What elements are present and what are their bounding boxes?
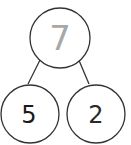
part-value-right: 2 bbox=[88, 101, 103, 129]
part-circle-right: 2 bbox=[67, 85, 125, 143]
connector-right bbox=[78, 58, 89, 84]
part-value-left: 5 bbox=[21, 101, 36, 129]
whole-value: 7 bbox=[49, 18, 71, 58]
part-circle-left: 5 bbox=[1, 85, 59, 143]
whole-circle: 7 bbox=[30, 8, 90, 68]
number-bond-diagram: 7 5 2 bbox=[0, 0, 131, 145]
connector-left bbox=[28, 58, 41, 84]
